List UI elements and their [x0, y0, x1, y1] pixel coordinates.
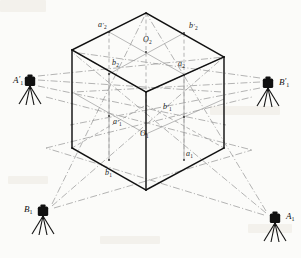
point-label-O1: O1: [140, 130, 149, 138]
point-label-a2p: a′2: [98, 21, 107, 29]
point-mark-b1p: [183, 116, 185, 118]
point-mark-O2: [145, 51, 147, 53]
point-label-O2: O2: [143, 36, 152, 44]
camera-station-B1[interactable]: [32, 204, 54, 235]
point-label-a1: a1: [186, 150, 193, 158]
point-mark-b2: [108, 73, 110, 75]
edge-bottom-back-right: [146, 105, 224, 148]
point-mark-a1: [183, 159, 185, 161]
point-label-b1p: b′1: [163, 103, 172, 111]
camera-station-B1p[interactable]: [257, 76, 279, 107]
edge-bottom-front-right: [146, 148, 224, 190]
point-label-a2: a2: [178, 60, 185, 68]
point-mark-a1p: [108, 115, 110, 117]
edge-top-front-right: [146, 57, 224, 92]
camera-label-B1: B1: [24, 205, 33, 214]
point-label-b2: b2: [112, 59, 119, 67]
point-label-b2p: b′2: [189, 22, 198, 30]
point-mark-a2p: [108, 31, 110, 33]
edge-top-upper-right: [146, 13, 224, 57]
figure-container: a′2 b′2 O2 b2 a2 b′1 a′1 O1 a1 b1 A′1 B′…: [0, 0, 301, 258]
camera-label-A1p: A′1: [13, 76, 23, 85]
cube-interior-grid-group: [72, 32, 224, 160]
camera-station-A1[interactable]: [264, 211, 286, 242]
point-mark-a2: [183, 74, 185, 76]
sight-lines-station-B1: [52, 13, 252, 208]
point-label-a1p: a′1: [113, 118, 122, 126]
right-face-mid-horizontal: [146, 99, 224, 134]
point-mark-b1: [108, 159, 110, 161]
camera-label-A1: A1: [286, 212, 295, 221]
point-label-b1: b1: [105, 169, 112, 177]
sight-lines-station-A1p: [38, 57, 226, 125]
point-mark-b2p: [183, 32, 185, 34]
camera-label-B1p: B′1: [279, 78, 289, 87]
